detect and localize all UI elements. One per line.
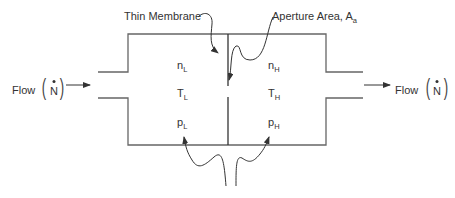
right-T: TH [268,88,280,102]
chamber-outline [98,34,363,145]
flow-out-paren-open: ( [426,75,430,99]
right-p: pH [268,117,280,131]
aperture-leader [229,17,273,80]
flow-out-paren-close: ) [444,75,448,99]
aperture-area-sub: a [353,16,357,25]
right-n: nH [268,60,280,74]
aperture-area-label: Aperture Area, Aa [272,11,357,25]
flow-in-paren-open: ( [42,75,46,99]
left-n: nL [177,60,187,74]
flow-in-ndot: N [50,86,58,97]
flow-in-paren-close: ) [60,75,64,99]
thin-membrane-label: Thin Membrane [124,11,201,22]
flow-out-ndot: N [433,86,441,97]
flow-out-label: Flow [395,85,418,96]
left-T: TL [177,88,188,102]
effusion-chamber-diagram [0,0,455,198]
aperture-area-text: Aperture Area, A [272,10,353,22]
flow-in-label: Flow [12,85,35,96]
left-p: pL [177,117,187,131]
